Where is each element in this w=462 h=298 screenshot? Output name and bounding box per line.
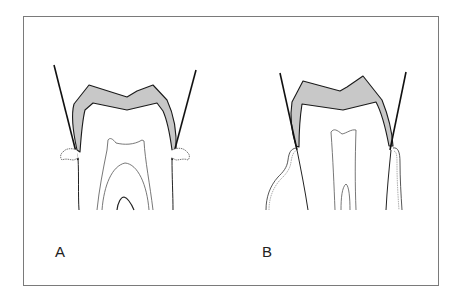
panel-a-pulp-inner-arc (102, 163, 149, 210)
diagram-canvas (0, 0, 462, 298)
panel-b-right-tangent-line (390, 72, 406, 150)
panel-a-pulp-chamber (97, 139, 153, 210)
panel-b-left-root-wall (297, 150, 308, 210)
panel-a-root-canal-arc (117, 197, 134, 210)
panel-b-label: B (262, 244, 272, 259)
panel-b-left-gingiva (266, 148, 296, 210)
panel-a-left-root-wall (78, 158, 79, 210)
panel-b-root-canal (341, 184, 350, 210)
panel-a-drawing (54, 65, 196, 210)
panel-a-enamel (73, 85, 177, 152)
panel-b-drawing (266, 72, 406, 210)
panel-a-right-gum-tuft (172, 148, 189, 160)
panel-b-pulp-chamber (331, 130, 356, 210)
panel-a-right-tangent-line (172, 70, 196, 160)
panel-a-label: A (55, 244, 65, 259)
panel-b-right-root-wall (386, 150, 391, 210)
panel-b-right-gingiva-inner (394, 151, 399, 210)
panel-a-right-root-wall (172, 158, 173, 210)
panel-b-left-gingiva-inner (269, 150, 297, 210)
panel-b-enamel (291, 76, 393, 147)
panel-a-left-gum-tuft (61, 149, 78, 160)
